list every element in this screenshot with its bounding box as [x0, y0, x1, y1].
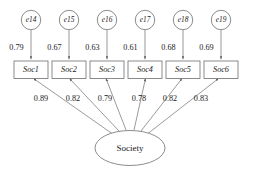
factor-loading-5: 0.83	[194, 94, 208, 103]
error-coefficient-1: 0.67	[47, 43, 61, 52]
edge-society-soc4	[134, 79, 146, 131]
error-label-e18: e18	[178, 15, 189, 24]
indicator-nodes: Soc1 Soc2 Soc3 Soc4 Soc5 Soc6	[14, 61, 238, 79]
error-label-e16: e16	[102, 15, 113, 24]
error-coefficient-5: 0.69	[199, 43, 213, 52]
indicator-label-soc6: Soc6	[213, 65, 230, 74]
error-label-e15: e15	[64, 15, 75, 24]
error-coefficient-0: 0.79	[9, 43, 23, 52]
factor-loading-3: 0.78	[132, 94, 146, 103]
indicator-label-soc5: Soc5	[175, 65, 191, 74]
diagram-canvas: e14 e15 e16 e17 e18 e19 0.79 0.67 0.63 0…	[0, 0, 256, 170]
latent-label-society: Society	[117, 143, 144, 153]
error-label-e14: e14	[26, 15, 37, 24]
error-coefficient-3: 0.61	[123, 43, 137, 52]
factor-loading-labels: 0.89 0.82 0.79 0.78 0.82 0.83	[34, 94, 208, 103]
indicator-label-soc2: Soc2	[61, 65, 77, 74]
indicator-label-soc4: Soc4	[137, 65, 153, 74]
sem-path-diagram: e14 e15 e16 e17 e18 e19 0.79 0.67 0.63 0…	[0, 0, 256, 170]
edge-society-soc3	[106, 79, 126, 131]
indicator-label-soc3: Soc3	[99, 65, 115, 74]
factor-loading-0: 0.89	[34, 94, 48, 103]
edge-society-soc2	[70, 79, 120, 132]
factor-loading-1: 0.82	[66, 94, 80, 103]
edge-society-soc6	[148, 79, 219, 134]
edge-society-soc1	[34, 79, 113, 134]
factor-loading-2: 0.79	[98, 94, 112, 103]
factor-loading-4: 0.82	[163, 94, 177, 103]
error-nodes: e14 e15 e16 e17 e18 e19	[21, 10, 230, 29]
error-label-e17: e17	[140, 15, 151, 24]
latent-to-indicator-edges	[34, 79, 219, 134]
error-coefficient-2: 0.63	[85, 43, 99, 52]
error-coefficient-4: 0.68	[161, 43, 175, 52]
indicator-label-soc1: Soc1	[23, 65, 39, 74]
error-label-e19: e19	[216, 15, 227, 24]
latent-node: Society	[95, 131, 165, 166]
